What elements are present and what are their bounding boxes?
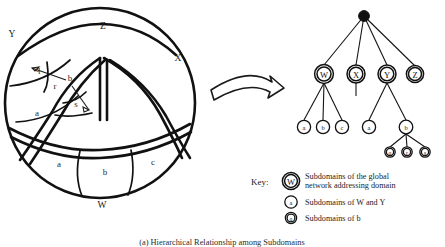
venn-diagram: Z Y X W q r s a b a b c [5, 8, 195, 210]
venn-label-z: Z [100, 21, 106, 31]
tree-edge-w-c [324, 83, 342, 120]
venn-label-w: W [98, 200, 107, 210]
pointer-to-s-head [83, 107, 89, 112]
tree-node-y-b[interactable]: b [399, 120, 413, 134]
tree-node-y-a[interactable]: a [362, 120, 375, 133]
key-legend: Key: W Subdomains of the global network … [251, 172, 396, 224]
tree-edge-w-b [323, 83, 324, 120]
tree-node-y-label: Y [384, 70, 390, 80]
tree-node-x-label: X [353, 70, 359, 80]
key-title: Key: [251, 177, 269, 187]
tree-edge-b-r [406, 134, 407, 147]
hierarchy-tree: W X Y Z a [297, 11, 430, 158]
tree-edge-y-a [369, 83, 387, 120]
key-symbol-a-label: a [290, 199, 293, 206]
tree-node-s[interactable]: s [420, 147, 430, 157]
tree-node-w-a-label: a [303, 124, 306, 131]
figure-svg: Z Y X W q r s a b a b c [0, 0, 445, 247]
venn-label-y-q: q [36, 64, 41, 74]
tree-edge-w-a [304, 83, 324, 120]
region-boundary-x-left-inner [110, 60, 190, 158]
venn-label-y: Y [9, 29, 16, 39]
key-entry-global: W Subdomains of the global network addre… [282, 172, 395, 190]
venn-label-x: X [175, 53, 182, 63]
tree-node-w-b-label: b [321, 124, 324, 131]
tree-node-r-label: r [406, 150, 408, 156]
tree-node-z-label: Z [412, 70, 417, 80]
venn-label-w-b: b [103, 167, 108, 177]
tree-node-q-label: q [389, 150, 392, 156]
venn-label-b-pointer: b [68, 73, 73, 83]
venn-label-w-c: c [151, 157, 155, 167]
figure-caption: (a) Hierarchical Relationship among Subd… [139, 238, 305, 247]
caption-label: (a) Hierarchical Relationship among Subd… [139, 238, 305, 247]
key-desc-global-line2: network addressing domain [305, 181, 396, 190]
tree-node-w-c[interactable]: c [335, 120, 348, 133]
key-desc-subdomains-wy: Subdomains of W and Y [305, 198, 385, 207]
tree-node-z[interactable]: Z [406, 65, 423, 82]
tree-edge-b-s [406, 134, 425, 147]
tree-node-y-b-label: b [404, 124, 407, 131]
tree-node-w-label: W [320, 70, 328, 80]
w-sub-split-b-c [128, 150, 133, 195]
tree-edge-root-w [324, 16, 364, 65]
tree-node-y[interactable]: Y [378, 65, 396, 83]
tree-node-x[interactable]: X [347, 65, 365, 83]
tree-edge-root-z [364, 16, 415, 66]
tree-node-w[interactable]: W [315, 65, 334, 84]
tree-node-w-c-label: c [341, 124, 344, 131]
tree-edge-y-b [387, 83, 406, 120]
transform-arrow-icon [211, 76, 284, 100]
tree-node-y-a-label: a [368, 124, 371, 131]
tree-edge-root-y [364, 16, 387, 65]
key-entry-subdomains-b: q Subdomains of b [285, 212, 360, 223]
key-symbol-w-label: W [287, 177, 295, 187]
key-symbol-q-label: q [290, 216, 293, 222]
key-desc-global-line1: Subdomains of the global [305, 172, 390, 181]
venn-label-w-a: a [57, 159, 61, 169]
key-desc-subdomains-b: Subdomains of b [305, 214, 361, 223]
tree-edge-b-q [390, 134, 406, 147]
figure-container: Z Y X W q r s a b a b c [0, 0, 445, 247]
tree-node-s-label: s [424, 150, 426, 156]
tree-node-q[interactable]: q [385, 147, 395, 157]
venn-label-y-s: s [74, 99, 78, 109]
venn-label-y-r: r [54, 81, 57, 91]
tree-node-root[interactable] [359, 11, 370, 22]
tree-node-r[interactable]: r [402, 147, 412, 157]
key-entry-subdomains-wy: a Subdomains of W and Y [285, 196, 386, 208]
tree-node-w-b[interactable]: b [316, 120, 329, 133]
tree-edge-root-x [356, 16, 364, 65]
venn-label-y-a: a [35, 108, 39, 118]
tree-node-w-a[interactable]: a [297, 120, 310, 133]
